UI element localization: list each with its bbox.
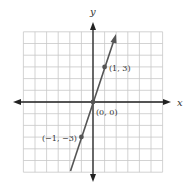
point-label-origin: (0, 0) [96,108,118,117]
y-axis-label: y [89,6,96,17]
x-axis-left-arrow-icon [13,99,21,105]
line-arrow-icon [111,34,117,44]
point-origin [91,100,96,105]
x-axis-right-arrow-icon [163,99,171,105]
point-1-3 [102,65,107,70]
coordinate-plane: y x (1, 3) (0, 0) (−1, −3) [0,0,195,184]
y-axis-down-arrow-icon [90,174,96,182]
y-axis-up-arrow-icon [90,22,96,30]
point-label-neg1-neg3: (−1, −3) [42,134,77,143]
x-axis-label: x [177,97,183,108]
point-label-1-3: (1, 3) [109,64,131,73]
point-neg1-neg3 [79,135,84,140]
